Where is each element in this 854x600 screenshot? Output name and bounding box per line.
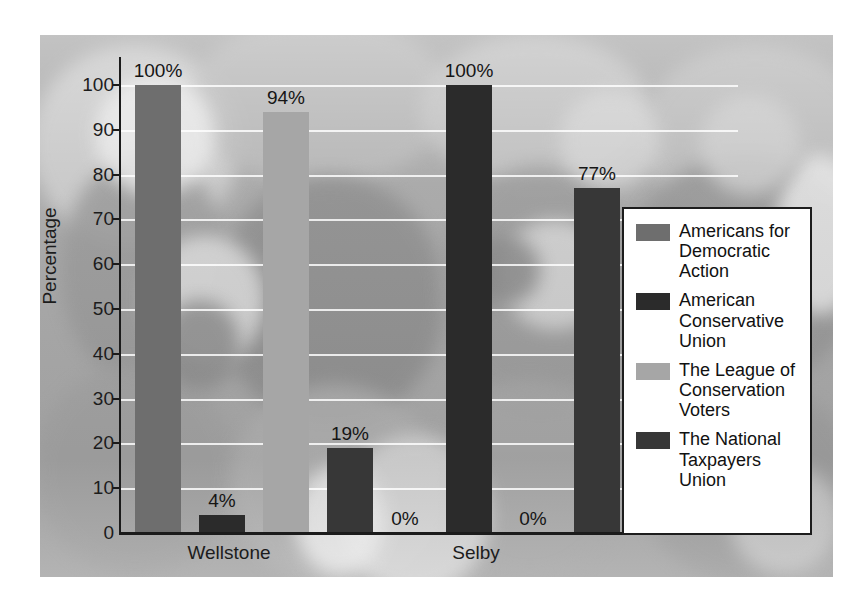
legend-swatch-icon [636, 432, 670, 449]
y-tick-label: 80 [70, 165, 114, 184]
y-tick-label: 30 [70, 389, 114, 408]
bar-value-label: 100% [424, 61, 514, 80]
bar [263, 112, 309, 533]
bar-value-label: 100% [113, 61, 203, 80]
chart-page: 100%4%94%19%0%100%0%77% 0102030405060708… [0, 0, 854, 600]
y-tick-mark [113, 353, 120, 355]
bar-value-label: 0% [488, 509, 578, 528]
y-tick-label: 20 [70, 433, 114, 452]
y-tick-label: 50 [70, 299, 114, 318]
legend-item[interactable]: The National Taxpayers Union [636, 429, 800, 489]
y-tick-mark [113, 218, 120, 220]
gridline [120, 85, 738, 87]
y-tick-label: 0 [70, 523, 114, 542]
legend-swatch-icon [636, 293, 670, 310]
y-tick-mark [113, 174, 120, 176]
legend-item[interactable]: American Conservative Union [636, 290, 800, 350]
bar-value-label: 0% [360, 509, 450, 528]
bar-value-label: 19% [305, 424, 395, 443]
y-tick-mark [113, 398, 120, 400]
y-tick-label: 90 [70, 120, 114, 139]
legend-item-label: Americans for Democratic Action [679, 221, 800, 281]
bar [446, 85, 492, 533]
bar-value-label: 94% [241, 88, 331, 107]
bar [574, 188, 620, 533]
chart-legend: Americans for Democratic ActionAmerican … [622, 207, 812, 535]
legend-swatch-icon [636, 224, 670, 241]
y-tick-mark [113, 129, 120, 131]
legend-item[interactable]: The League of Conservation Voters [636, 360, 800, 420]
legend-item-label: American Conservative Union [679, 290, 800, 350]
bar-value-label: 77% [552, 164, 642, 183]
y-tick-label: 70 [70, 209, 114, 228]
y-tick-label: 40 [70, 344, 114, 363]
y-tick-label: 100 [70, 75, 114, 94]
x-category-label: Wellstone [149, 542, 309, 564]
bar [135, 85, 181, 533]
bar [199, 515, 245, 533]
gridline [120, 130, 738, 132]
legend-item-label: The National Taxpayers Union [679, 429, 800, 489]
bar-value-label: 4% [177, 491, 267, 510]
y-tick-label: 60 [70, 254, 114, 273]
y-tick-mark [113, 487, 120, 489]
legend-swatch-icon [636, 363, 670, 380]
legend-item-label: The League of Conservation Voters [679, 360, 800, 420]
y-axis-title-wrap: Percentage [14, 0, 74, 600]
y-tick-mark [113, 308, 120, 310]
y-axis-title: Percentage [39, 176, 61, 336]
y-tick-label: 10 [70, 478, 114, 497]
y-tick-mark [113, 84, 120, 86]
gridline [120, 175, 738, 177]
plot-area: 100%4%94%19%0%100%0%77% [120, 60, 620, 534]
y-tick-mark [113, 263, 120, 265]
x-category-label: Selby [396, 542, 556, 564]
legend-item[interactable]: Americans for Democratic Action [636, 221, 800, 281]
y-tick-mark [113, 442, 120, 444]
